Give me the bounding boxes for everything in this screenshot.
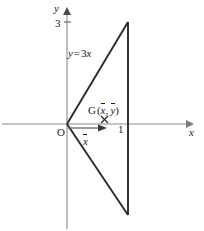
line-y-equals-minus-3x bbox=[67, 124, 128, 215]
origin-label: O bbox=[57, 127, 65, 138]
xbar-arrow-head bbox=[98, 125, 107, 132]
line-equation-variable: x bbox=[86, 47, 91, 59]
math-figure: y 3 y = 3x G (x, y) O x 1 x bbox=[0, 0, 204, 231]
centroid-close-paren: ) bbox=[115, 104, 119, 116]
y-tick-label-3: 3 bbox=[55, 18, 61, 29]
line-equation-lhs: y bbox=[68, 47, 73, 59]
line-equation-label: y = 3x bbox=[68, 48, 91, 59]
centroid-label: G (x, y) bbox=[88, 105, 119, 116]
xbar-label: x bbox=[83, 136, 88, 147]
y-axis-label: y bbox=[54, 3, 59, 14]
centroid-marker-icon bbox=[101, 116, 108, 123]
line-equation-equals: = bbox=[74, 47, 80, 59]
centroid-name: G bbox=[88, 104, 96, 116]
centroid-ybar: y bbox=[110, 105, 115, 116]
centroid-comma: , bbox=[105, 104, 108, 116]
x-tick-label-1: 1 bbox=[118, 124, 124, 135]
y-axis-arrowhead bbox=[63, 7, 71, 15]
centroid-xbar: x bbox=[101, 105, 106, 116]
x-axis-label: x bbox=[189, 127, 194, 138]
